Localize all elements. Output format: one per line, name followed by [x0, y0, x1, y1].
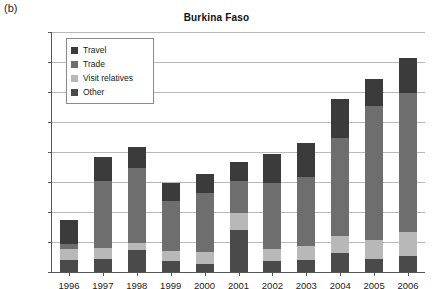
bar-segment[interactable]	[399, 58, 417, 92]
x-tick-mark	[103, 272, 104, 276]
bar-segment[interactable]	[263, 154, 281, 183]
x-tick-mark	[205, 272, 206, 276]
x-tick-mark	[69, 272, 70, 276]
legend-item[interactable]: Trade	[71, 57, 148, 71]
bar-segment[interactable]	[331, 99, 349, 137]
bar-segment[interactable]	[230, 213, 248, 230]
x-tick-label: 2006	[385, 280, 431, 289]
bar-segment[interactable]	[297, 260, 315, 272]
bar-segment[interactable]	[263, 183, 281, 249]
bar-segment[interactable]	[60, 249, 78, 260]
bar-segment[interactable]	[196, 193, 214, 252]
bar-segment[interactable]	[230, 162, 248, 181]
bar-segment[interactable]	[399, 256, 417, 272]
bar-segment[interactable]	[94, 259, 112, 272]
bar-segment[interactable]	[60, 244, 78, 249]
x-tick-mark	[171, 272, 172, 276]
bar-segment[interactable]	[365, 240, 383, 259]
bar-segment[interactable]	[162, 251, 180, 261]
x-tick-mark	[272, 272, 273, 276]
legend-label: Visit relatives	[83, 73, 133, 83]
bar-column[interactable]	[230, 32, 248, 272]
bar-segment[interactable]	[331, 253, 349, 272]
bar-segment[interactable]	[263, 249, 281, 262]
bar-segment[interactable]	[365, 79, 383, 107]
bar-segment[interactable]	[196, 252, 214, 263]
bar-segment[interactable]	[331, 138, 349, 236]
bar-segment[interactable]	[331, 236, 349, 253]
bar-segment[interactable]	[128, 243, 146, 250]
x-tick-mark	[374, 272, 375, 276]
bar-segment[interactable]	[60, 220, 78, 244]
bar-segment[interactable]	[196, 264, 214, 272]
bar-segment[interactable]	[297, 143, 315, 177]
x-tick-mark	[137, 272, 138, 276]
chart-figure: (b) Burkina Faso 05000010000015000020000…	[0, 0, 433, 289]
chart-title: Burkina Faso	[0, 12, 433, 23]
bar-segment[interactable]	[399, 93, 417, 232]
x-tick-mark	[340, 272, 341, 276]
bar-column[interactable]	[365, 32, 383, 272]
bar-column[interactable]	[196, 32, 214, 272]
legend-swatch-icon	[71, 89, 78, 96]
bar-segment[interactable]	[196, 174, 214, 194]
bar-segment[interactable]	[162, 183, 180, 202]
bar-segment[interactable]	[365, 259, 383, 272]
bar-segment[interactable]	[60, 260, 78, 272]
bar-segment[interactable]	[365, 106, 383, 240]
bar-segment[interactable]	[128, 168, 146, 243]
bar-segment[interactable]	[399, 232, 417, 256]
legend-swatch-icon	[71, 75, 78, 82]
bar-segment[interactable]	[230, 230, 248, 272]
bar-segment[interactable]	[162, 261, 180, 272]
bar-segment[interactable]	[94, 157, 112, 182]
bar-segment[interactable]	[230, 181, 248, 213]
legend-item[interactable]: Other	[71, 85, 148, 99]
bar-segment[interactable]	[297, 246, 315, 260]
bar-segment[interactable]	[94, 248, 112, 259]
bar-column[interactable]	[331, 32, 349, 272]
bar-column[interactable]	[297, 32, 315, 272]
legend-label: Travel	[83, 45, 106, 55]
legend-label: Other	[83, 87, 104, 97]
x-tick-mark	[239, 272, 240, 276]
bar-segment[interactable]	[128, 250, 146, 272]
bar-segment[interactable]	[263, 261, 281, 272]
legend-swatch-icon	[71, 61, 78, 68]
bar-segment[interactable]	[162, 201, 180, 251]
legend-swatch-icon	[71, 47, 78, 54]
legend-item[interactable]: Visit relatives	[71, 71, 148, 85]
bar-column[interactable]	[399, 32, 417, 272]
chart-legend: TravelTradeVisit relativesOther	[66, 38, 154, 104]
x-tick-mark	[306, 272, 307, 276]
bar-segment[interactable]	[94, 181, 112, 248]
bar-column[interactable]	[263, 32, 281, 272]
x-tick-mark	[408, 272, 409, 276]
bar-segment[interactable]	[128, 147, 146, 169]
legend-label: Trade	[83, 59, 105, 69]
x-axis-line	[51, 272, 425, 273]
bar-segment[interactable]	[297, 177, 315, 246]
legend-item[interactable]: Travel	[71, 43, 148, 57]
bar-column[interactable]	[162, 32, 180, 272]
